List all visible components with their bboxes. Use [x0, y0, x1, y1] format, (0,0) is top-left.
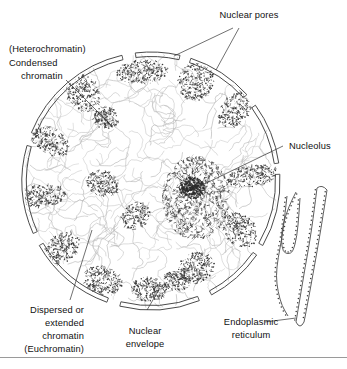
- endoplasmic-reticulum: [274, 186, 327, 326]
- leader-nuclear-pores-1: [174, 28, 233, 56]
- label-nuclear-envelope-line2: envelope: [126, 339, 165, 349]
- heterochromatin-patch: [164, 269, 192, 291]
- label-nucleolus: Nucleolus: [289, 141, 331, 151]
- label-heterochromatin-paren: (Heterochromatin): [9, 44, 86, 54]
- heterochromatin-patch: [178, 252, 215, 284]
- er-cisterna-top-tip: [317, 186, 327, 190]
- er-cisterna-tip: [296, 322, 304, 326]
- label-endoplasmic-reticulum-line2: reticulum: [232, 330, 271, 340]
- footer-divider: [0, 357, 347, 358]
- label-euchromatin-line2: extended: [45, 318, 84, 328]
- diagram-canvas: Nuclear pores (Heterochromatin) Condense…: [0, 0, 347, 369]
- label-nuclear-envelope-line1: Nuclear: [129, 326, 162, 336]
- label-condensed-chromatin-line1: Condensed: [9, 58, 57, 68]
- heterochromatin-patch: [131, 277, 167, 302]
- heterochromatin-patch: [18, 184, 66, 208]
- heterochromatin-patch: [93, 107, 119, 130]
- label-euchromatin-line1: Dispersed or: [30, 305, 84, 315]
- label-euchromatin-line3: chromatin: [42, 331, 84, 341]
- label-condensed-chromatin-line2: chromatin: [21, 71, 63, 81]
- envelope-segment: [22, 145, 37, 233]
- label-euchromatin-line4: (Euchromatin): [24, 344, 84, 354]
- envelope-segment: [189, 58, 246, 97]
- label-nuclear-pores: Nuclear pores: [219, 10, 278, 20]
- nuclear-envelope: [22, 52, 280, 310]
- nucleus-diagram-figure: Nuclear pores (Heterochromatin) Condense…: [0, 0, 347, 369]
- heterochromatin-patch: [84, 265, 123, 295]
- label-endoplasmic-reticulum-line1: Endoplasmic: [224, 317, 279, 327]
- er-cisterna-outer-b: [303, 190, 327, 322]
